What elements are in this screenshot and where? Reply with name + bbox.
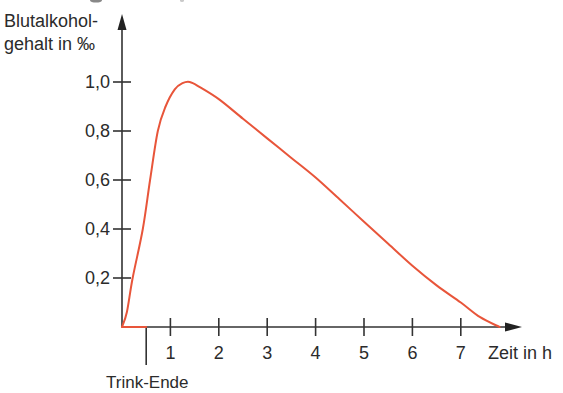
y-tick-label: 0,2 xyxy=(85,268,110,288)
y-axis xyxy=(118,14,127,327)
x-tick-label: 7 xyxy=(456,343,466,363)
x-tick-label: 2 xyxy=(214,343,224,363)
y-tick-label: 0,6 xyxy=(85,170,110,190)
x-tick-label: 5 xyxy=(359,343,369,363)
cropped-text-fragments xyxy=(90,0,184,3)
y-axis-label-line1: Blutalkohol- xyxy=(4,11,98,31)
y-tick-label: 0,4 xyxy=(85,219,110,239)
y-tick-label: 1,0 xyxy=(85,72,110,92)
data-series xyxy=(122,82,500,327)
x-axis-arrow-icon xyxy=(505,323,522,332)
trink-ende-marker: Trink-Ende xyxy=(106,327,189,392)
y-tick-label: 0,8 xyxy=(85,121,110,141)
x-tick-label: 6 xyxy=(407,343,417,363)
x-axis-ticks: 1234567 xyxy=(165,318,465,363)
x-tick-label: 4 xyxy=(311,343,321,363)
y-axis-arrow-icon xyxy=(118,14,127,30)
x-tick-label: 1 xyxy=(165,343,175,363)
y-axis-label-line2: gehalt in ‰ xyxy=(4,34,95,54)
blood-alcohol-curve xyxy=(122,82,500,327)
y-axis-ticks: 0,20,40,60,81,0 xyxy=(85,72,131,288)
x-axis xyxy=(122,323,522,332)
x-axis-label: Zeit in h xyxy=(488,343,552,363)
trink-ende-label: Trink-Ende xyxy=(106,373,189,392)
blood-alcohol-chart: Blutalkohol- gehalt in ‰ 0,20,40,60,81,0… xyxy=(0,0,563,393)
x-tick-label: 3 xyxy=(262,343,272,363)
